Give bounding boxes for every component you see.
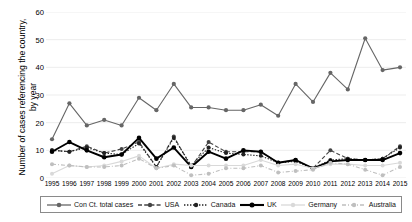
data-point xyxy=(241,166,245,170)
legend-item-uk[interactable]: UK xyxy=(239,196,277,214)
legend-marker-icon xyxy=(280,196,306,214)
x-tick-label: 1995 xyxy=(45,180,60,187)
data-point xyxy=(328,161,332,165)
data-point xyxy=(67,150,71,154)
x-tick-label: 1997 xyxy=(79,180,94,187)
y-tick-label: 40 xyxy=(22,63,44,72)
data-point xyxy=(381,68,385,72)
chart-figure: Number of cases referencing the country,… xyxy=(0,0,412,222)
data-point xyxy=(207,172,211,176)
data-point xyxy=(119,152,124,157)
legend-item-con-ct-total-cases[interactable]: Con Ct. total cases xyxy=(46,196,133,214)
y-axis-tick-labels: 0102030405060 xyxy=(18,12,44,178)
legend-label: UK xyxy=(267,201,277,208)
legend-label: Germany xyxy=(308,201,337,208)
data-point xyxy=(294,169,298,173)
data-point xyxy=(120,147,124,151)
data-point xyxy=(50,149,55,154)
data-point xyxy=(259,158,263,162)
x-tick-label: 1999 xyxy=(114,180,129,187)
data-point xyxy=(50,172,54,176)
data-point xyxy=(102,155,107,160)
data-point xyxy=(189,164,193,168)
legend-item-usa[interactable]: USA xyxy=(137,196,179,214)
plot-area xyxy=(46,12,406,178)
data-point xyxy=(294,82,298,86)
data-point xyxy=(120,164,124,168)
data-point xyxy=(172,82,176,86)
data-point xyxy=(85,148,90,153)
data-point xyxy=(50,162,54,166)
series-con-ct-total-cases xyxy=(50,36,402,141)
data-point xyxy=(206,149,211,154)
legend-marker-icon xyxy=(183,196,209,214)
data-point xyxy=(67,164,71,168)
x-tick-label: 2002 xyxy=(166,180,181,187)
data-point xyxy=(363,164,367,168)
x-tick-label: 2013 xyxy=(358,180,373,187)
data-point xyxy=(120,159,124,163)
legend-item-germany[interactable]: Germany xyxy=(280,196,337,214)
data-point xyxy=(381,164,385,168)
data-point xyxy=(67,101,71,105)
data-point xyxy=(102,151,106,155)
data-point xyxy=(241,152,245,156)
data-point xyxy=(85,165,89,169)
y-tick-label: 20 xyxy=(22,118,44,127)
data-point xyxy=(172,136,176,140)
data-point xyxy=(207,140,211,144)
data-point xyxy=(67,140,72,145)
data-point xyxy=(207,146,211,150)
legend-item-canada[interactable]: Canada xyxy=(183,196,236,214)
data-point xyxy=(224,108,228,112)
data-point xyxy=(102,118,106,122)
data-point xyxy=(224,151,228,155)
x-tick-label: 2000 xyxy=(132,180,147,187)
data-point xyxy=(154,166,158,170)
data-point xyxy=(224,166,228,170)
x-tick-label: 2011 xyxy=(323,180,337,187)
data-point xyxy=(120,123,124,127)
legend-marker-icon xyxy=(137,196,163,214)
data-point xyxy=(346,158,351,163)
y-tick-label: 60 xyxy=(22,8,44,17)
data-point xyxy=(363,168,367,172)
x-tick-label: 1996 xyxy=(62,180,77,187)
data-point xyxy=(398,146,402,150)
x-tick-label: 1998 xyxy=(97,180,112,187)
data-point xyxy=(189,105,193,109)
data-point xyxy=(328,148,332,152)
data-point xyxy=(311,168,315,172)
data-point xyxy=(381,173,385,177)
x-axis-tick-labels: 1995199619971998199920002001200220032004… xyxy=(46,180,406,192)
data-point xyxy=(50,137,54,141)
data-point xyxy=(276,114,280,118)
x-tick-label: 2012 xyxy=(340,180,355,187)
data-point xyxy=(398,161,402,165)
data-point xyxy=(398,165,402,169)
data-point xyxy=(137,96,141,100)
x-tick-label: 2005 xyxy=(219,180,234,187)
legend-label: USA xyxy=(165,201,179,208)
x-tick-label: 2003 xyxy=(184,180,199,187)
data-point xyxy=(154,108,158,112)
legend-marker-icon xyxy=(46,196,72,214)
legend-label: Canada xyxy=(211,201,236,208)
data-point xyxy=(398,65,402,69)
data-point xyxy=(137,141,141,145)
y-tick-label: 50 xyxy=(22,35,44,44)
x-tick-label: 2006 xyxy=(236,180,251,187)
legend-item-australia[interactable]: Australia xyxy=(341,196,396,214)
data-point xyxy=(137,136,142,141)
data-series-layer xyxy=(46,12,406,178)
data-point xyxy=(380,158,385,163)
data-point xyxy=(311,100,315,104)
data-point xyxy=(259,149,264,154)
data-point xyxy=(189,173,193,177)
x-tick-label: 2001 xyxy=(149,180,164,187)
chart-legend: Con Ct. total casesUSACanadaUKGermanyAus… xyxy=(40,196,402,213)
data-point xyxy=(259,154,263,158)
data-point xyxy=(259,103,263,107)
legend-label: Con Ct. total cases xyxy=(74,201,133,208)
legend-marker-icon xyxy=(341,196,367,214)
